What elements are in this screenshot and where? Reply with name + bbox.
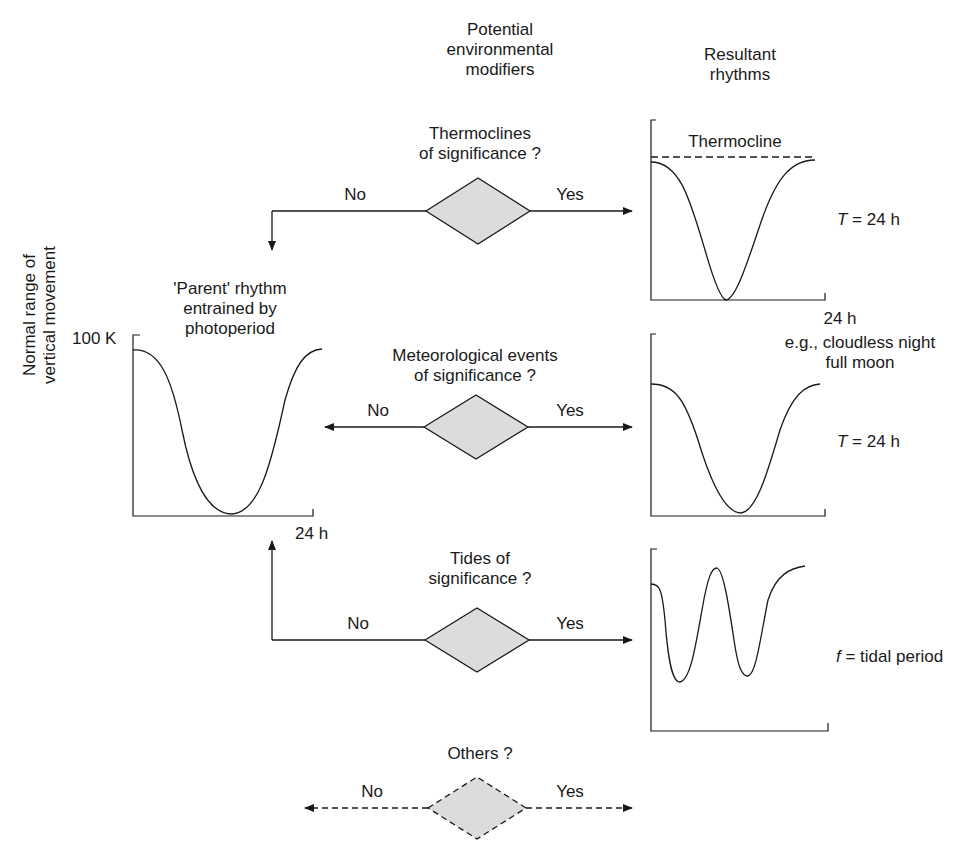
note-meteorological: e.g., cloudless night full moon [760, 333, 960, 373]
header-resultant-line2: rhythms [680, 65, 800, 85]
period-text: = tidal period [841, 647, 944, 666]
y-axis-line2: vertical movement [40, 200, 60, 430]
header-resultant: Resultant rhythms [680, 45, 800, 85]
question-meteorological: Meteorological events of significance ? [370, 346, 580, 386]
header-modifiers-line3: modifiers [420, 60, 580, 80]
label-no-tides: No [338, 614, 378, 634]
diamond-meteorological [424, 395, 528, 459]
parent-chart [133, 335, 322, 516]
label-yes-others: Yes [550, 782, 590, 802]
diamond-tides [425, 608, 529, 672]
diamond-others [428, 777, 526, 839]
x-end-thermocline: 24 h [815, 309, 865, 329]
result-chart-tidal [651, 549, 828, 731]
question-meteorological-line2: of significance ? [370, 366, 580, 386]
parent-title-line2: entrained by [140, 299, 320, 319]
label-thermocline: Thermocline [675, 132, 795, 152]
label-yes-thermoclines: Yes [550, 185, 590, 205]
parent-title-line1: 'Parent' rhythm [140, 279, 320, 299]
parent-x-end: 24 h [295, 524, 328, 544]
period-meteorological: T = 24 h [837, 432, 900, 452]
period-tidal: f = tidal period [836, 647, 943, 667]
period-text: = 24 h [847, 432, 899, 451]
question-others: Others ? [420, 744, 540, 764]
question-thermoclines-line1: Thermoclines [390, 124, 570, 144]
diamond-thermoclines [426, 178, 530, 244]
header-modifiers-line1: Potential [420, 20, 580, 40]
label-yes-tides: Yes [550, 614, 590, 634]
label-no-meteorological: No [358, 401, 398, 421]
question-tides: Tides of significance ? [400, 549, 560, 589]
period-var: T [837, 432, 847, 451]
question-thermoclines-line2: of significance ? [390, 144, 570, 164]
parent-title-line3: photoperiod [140, 319, 320, 339]
question-tides-line1: Tides of [400, 549, 560, 569]
parent-y-axis-label: Normal range of vertical movement [20, 200, 60, 430]
label-yes-meteorological: Yes [550, 401, 590, 421]
y-axis-line1: Normal range of [20, 200, 40, 430]
note-line1: e.g., cloudless night [760, 333, 960, 353]
question-meteorological-line1: Meteorological events [370, 346, 580, 366]
parent-title: 'Parent' rhythm entrained by photoperiod [140, 279, 320, 339]
question-thermoclines: Thermoclines of significance ? [390, 124, 570, 164]
parent-y-max: 100 K [72, 329, 116, 349]
period-var: T [837, 210, 847, 229]
note-line2: full moon [760, 353, 960, 373]
header-modifiers-line2: environmental [420, 40, 580, 60]
header-resultant-line1: Resultant [680, 45, 800, 65]
period-thermocline: T = 24 h [837, 210, 900, 230]
label-no-thermoclines: No [335, 185, 375, 205]
question-tides-line2: significance ? [400, 569, 560, 589]
period-text: = 24 h [847, 210, 899, 229]
label-no-others: No [352, 782, 392, 802]
header-modifiers: Potential environmental modifiers [420, 20, 580, 80]
